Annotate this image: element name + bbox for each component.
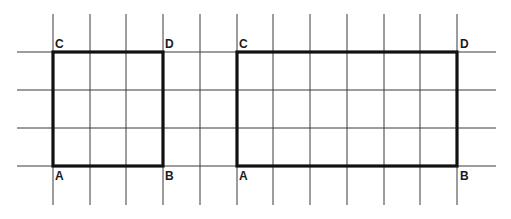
square-abcd: CDAB <box>53 37 174 183</box>
square-outline <box>53 52 163 166</box>
shapes: CDABCDAB <box>53 37 469 183</box>
vertex-label-d: D <box>460 37 469 51</box>
vertex-label-d: D <box>165 37 174 51</box>
vertex-label-b: B <box>165 169 174 183</box>
rectangle-abcd: CDAB <box>237 37 469 183</box>
vertex-label-c: C <box>239 37 248 51</box>
grid-lines <box>17 14 496 205</box>
grid-diagram: CDABCDAB <box>0 0 511 219</box>
vertex-label-a: A <box>55 169 64 183</box>
vertex-label-b: B <box>460 169 469 183</box>
vertex-label-a: A <box>239 169 248 183</box>
vertex-label-c: C <box>55 37 64 51</box>
